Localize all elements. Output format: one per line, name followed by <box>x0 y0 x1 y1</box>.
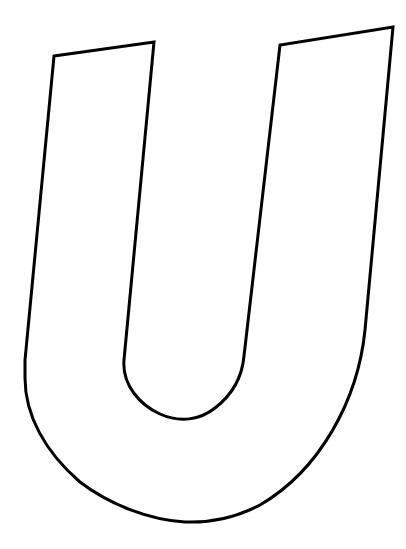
letter-u-shape <box>25 27 393 522</box>
letter-u-outline <box>0 0 406 549</box>
letter-u-canvas: U <box>0 0 406 549</box>
